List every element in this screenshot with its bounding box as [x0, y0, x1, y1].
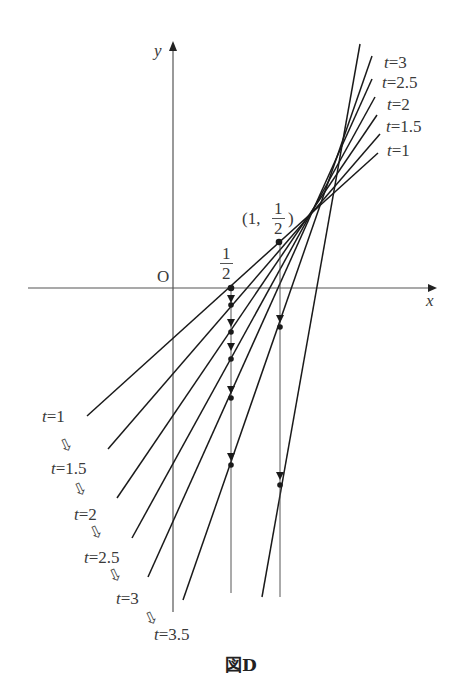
t-value: =1 [47, 407, 65, 426]
point-one-half [276, 239, 283, 246]
x-label-text: x [426, 291, 434, 310]
t-value: =1.5 [391, 117, 422, 136]
down-triangle-icon [276, 315, 284, 323]
point-label-numerator: 1 [272, 200, 285, 219]
marker-dot [228, 302, 234, 308]
t-value: =3 [121, 589, 139, 608]
down-triangle-icon [227, 295, 235, 303]
y-axis-label: y [154, 42, 162, 59]
t-value: =2.5 [387, 73, 418, 92]
bottom-label-t3: t=3 [116, 590, 139, 607]
down-triangle-icon [227, 343, 235, 351]
half-numerator: 1 [220, 245, 233, 264]
t-value: =2 [392, 95, 410, 114]
origin-label: O [157, 268, 169, 285]
tangent-line-t-2 [117, 115, 377, 498]
point-label-fraction: 1 2 [272, 200, 285, 237]
bottom-label-t3-5: t=3.5 [154, 626, 190, 643]
top-label-t1: t=1 [387, 142, 410, 159]
point-label-prefix: (1, [242, 210, 260, 227]
down-triangle-icon [227, 386, 235, 394]
top-label-t3: t=3 [384, 54, 407, 71]
marker-dot [277, 482, 283, 488]
bottom-label-t1-5: t=1.5 [51, 460, 87, 477]
marker-dot [228, 395, 234, 401]
tangent-line-steep [262, 44, 360, 597]
marker-dot [277, 324, 283, 330]
bottom-label-t1: t=1 [42, 408, 65, 425]
t-value: =1 [392, 141, 410, 160]
half-denominator: 2 [220, 264, 233, 282]
bottom-label-t2: t=2 [74, 506, 97, 523]
y-axis-arrow-icon [169, 41, 177, 51]
t-value: =1.5 [56, 459, 87, 478]
figure-caption: 図D [225, 651, 257, 676]
t-value: =3.5 [159, 625, 190, 644]
top-label-t1-5: t=1.5 [386, 118, 422, 135]
y-label-text: y [154, 41, 162, 60]
x-axis-label: x [426, 292, 434, 309]
point-label-suffix: ) [288, 210, 294, 227]
t-value: =3 [389, 53, 407, 72]
marker-dot [228, 356, 234, 362]
marker-dot [228, 462, 234, 468]
top-label-t2-5: t=2.5 [382, 74, 418, 91]
half-label: 1 2 [220, 245, 233, 282]
down-triangle-icon [227, 453, 235, 461]
point-half-zero [228, 285, 235, 292]
marker-dot [228, 329, 234, 335]
tangent-line-t-1-5 [108, 134, 380, 449]
point-label-denominator: 2 [272, 219, 285, 237]
top-label-t2: t=2 [387, 96, 410, 113]
